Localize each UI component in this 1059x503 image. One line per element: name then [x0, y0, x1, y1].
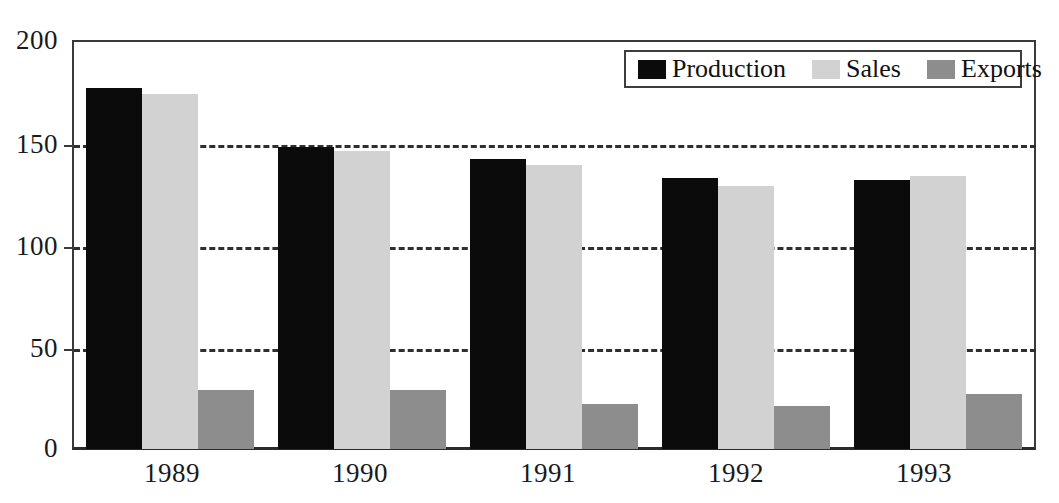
- bar-chart: 200 150 100 50 0 1989 1990 1991 1992 199…: [0, 0, 1059, 503]
- legend-label-exports: Exports: [961, 56, 1042, 82]
- legend-swatch-production-icon: [638, 60, 666, 79]
- legend-item-sales: Sales: [812, 56, 901, 82]
- bar-sales-1992: [718, 186, 774, 449]
- ytick-50: [64, 349, 74, 351]
- legend-label-production: Production: [672, 56, 786, 82]
- y-axis-label-100: 100: [0, 233, 58, 260]
- ytick-150: [64, 145, 74, 147]
- bar-production-1990: [278, 147, 334, 449]
- bar-exports-1992: [774, 406, 830, 449]
- x-axis-label-1993: 1993: [854, 458, 994, 488]
- y-axis-label-150: 150: [0, 131, 58, 158]
- bar-sales-1989: [142, 94, 198, 449]
- bar-sales-1993: [910, 176, 966, 449]
- y-axis-label-0: 0: [0, 435, 58, 462]
- legend-swatch-sales-icon: [812, 60, 840, 79]
- y-axis-label-200: 200: [0, 27, 58, 54]
- x-axis-label-1989: 1989: [102, 458, 242, 488]
- bar-production-1991: [470, 159, 526, 449]
- ytick-100: [64, 247, 74, 249]
- chart-legend: Production Sales Exports: [624, 50, 1022, 88]
- bar-production-1992: [662, 178, 718, 449]
- legend-item-production: Production: [638, 56, 786, 82]
- x-axis-label-1991: 1991: [478, 458, 618, 488]
- bar-exports-1993: [966, 394, 1022, 449]
- y-axis-label-50: 50: [0, 335, 58, 362]
- legend-item-exports: Exports: [927, 56, 1042, 82]
- bar-exports-1990: [390, 390, 446, 449]
- bar-production-1993: [854, 180, 910, 449]
- bar-sales-1990: [334, 151, 390, 449]
- bar-production-1989: [86, 88, 142, 449]
- bars-layer: [74, 41, 1034, 449]
- bar-exports-1989: [198, 390, 254, 449]
- x-axis-label-1990: 1990: [290, 458, 430, 488]
- bar-exports-1991: [582, 404, 638, 449]
- legend-swatch-exports-icon: [927, 60, 955, 79]
- x-axis-label-1992: 1992: [666, 458, 806, 488]
- legend-label-sales: Sales: [846, 56, 901, 82]
- bar-sales-1991: [526, 165, 582, 449]
